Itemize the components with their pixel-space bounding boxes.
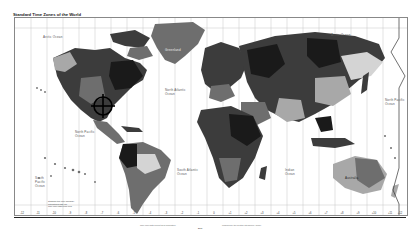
label-north-pacific-left: North Pacific Ocean <box>75 130 95 138</box>
hour-label: -10 <box>47 212 61 215</box>
hour-label: -2 <box>175 212 189 215</box>
hour-label: +12 <box>393 212 407 215</box>
hour-label: +8 <box>335 212 349 215</box>
label-indian-ocean: Indian Ocean <box>285 168 303 176</box>
label-arctic-ocean-left: Arctic Ocean <box>43 35 63 39</box>
hour-label: +2 <box>239 212 253 215</box>
hour-label: +4 <box>271 212 285 215</box>
hour-label: +3 <box>255 212 269 215</box>
map-graphic <box>15 18 407 215</box>
label-arctic-ocean-right: Arctic Ocean <box>331 33 351 37</box>
hour-label: +10 <box>367 212 381 215</box>
label-north-pacific-right: North Pacific Ocean <box>385 98 405 106</box>
label-south-pacific: South Pacific Ocean <box>35 176 53 188</box>
hour-label: -8 <box>79 212 93 215</box>
label-south-atlantic: South Atlantic Ocean <box>177 168 199 176</box>
map-id: 8031 <box>198 227 202 229</box>
hour-label: -4 <box>143 212 157 215</box>
hour-label: -11 <box>31 212 45 215</box>
hour-label: +1 <box>223 212 237 215</box>
hour-label: -1 <box>191 212 205 215</box>
hour-label: 0 <box>207 212 221 215</box>
hour-label: -5 <box>127 212 141 215</box>
world-map[interactable]: Arctic Ocean Arctic Ocean Greenland Nort… <box>14 17 408 216</box>
hour-label: -7 <box>95 212 109 215</box>
footer-note-right: Produced by the Central Intelligence Age… <box>222 224 261 226</box>
label-greenland: Greenland <box>165 48 181 52</box>
map-legend: Standard time zone boundary Internationa… <box>48 200 74 208</box>
label-north-atlantic: North Atlantic Ocean <box>165 88 191 96</box>
legend-item: Time zone offset from UTC <box>48 205 74 208</box>
hour-label: +5 <box>287 212 301 215</box>
footer-note-left: Time zone data current as of publication <box>140 224 176 226</box>
hour-label: +6 <box>303 212 317 215</box>
label-australia: Australia <box>345 176 358 180</box>
hour-label: -9 <box>63 212 77 215</box>
hour-label: -6 <box>111 212 125 215</box>
hour-label: -3 <box>159 212 173 215</box>
hour-label: +9 <box>351 212 365 215</box>
hour-offset-strip: -12 -11 -10 -9 -8 -7 -6 -5 -4 -3 -2 -1 0… <box>14 212 406 221</box>
hour-label: +7 <box>319 212 333 215</box>
hour-label: -12 <box>15 212 29 215</box>
